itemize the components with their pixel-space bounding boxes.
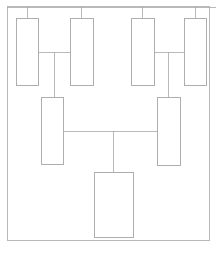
person-box-g1-box-3[interactable] xyxy=(132,19,155,86)
person-box-g1-box-1[interactable] xyxy=(17,19,39,86)
family-tree-diagram xyxy=(0,0,216,253)
person-box-g2-box-2[interactable] xyxy=(158,98,181,166)
person-box-g1-box-2[interactable] xyxy=(71,19,94,86)
person-box-g1-box-4[interactable] xyxy=(185,19,207,86)
family-tree-canvas xyxy=(0,0,216,253)
generation-group-generation-3 xyxy=(95,173,134,238)
person-box-g2-box-1[interactable] xyxy=(42,98,64,165)
person-box-g3-box-1[interactable] xyxy=(95,173,134,238)
